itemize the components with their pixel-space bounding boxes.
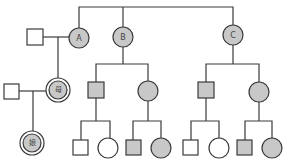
male-affected-C-daughter-child xyxy=(237,140,252,155)
female-affected-B-daughter xyxy=(138,81,158,101)
female-affected-C-daughter xyxy=(249,82,269,102)
label-A: A xyxy=(76,34,82,43)
node-A: A xyxy=(69,28,89,48)
node-mother: 母 xyxy=(46,78,70,102)
male-unaffected-C-son-child xyxy=(183,140,198,155)
node-daughter: 娘 xyxy=(20,131,44,155)
male-unaffected-father xyxy=(4,84,19,99)
label-mother: 母 xyxy=(55,86,62,94)
label-C: C xyxy=(230,31,236,40)
female-unaffected-C-son-child xyxy=(209,138,229,158)
label-daughter: 娘 xyxy=(29,138,36,147)
label-B: B xyxy=(120,33,126,42)
female-affected-B-daughter-child xyxy=(151,138,171,158)
node-C: C xyxy=(223,25,243,45)
male-affected-B-daughter-child xyxy=(126,140,141,155)
male-unaffected-B-son-child xyxy=(73,140,88,155)
node-B: B xyxy=(113,27,133,47)
female-unaffected-B-son-child xyxy=(98,138,118,158)
male-affected-C-son xyxy=(198,82,214,98)
pedigree-diagram: A B C 母 娘 xyxy=(0,0,284,167)
male-unaffected-husband-of-A xyxy=(27,29,43,45)
male-affected-B-son xyxy=(88,82,104,98)
female-affected-C-daughter-child xyxy=(262,138,282,158)
